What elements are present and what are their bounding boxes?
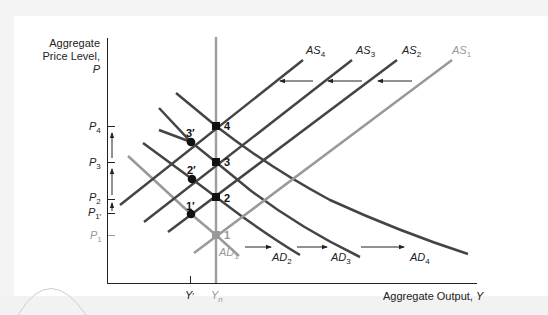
as3-line [144,60,352,222]
point-2 [212,193,220,201]
label-as1: AS1 [452,44,471,61]
ad1-curve [128,156,239,256]
y-axis-title-line1: Aggregate [49,37,100,49]
as4-line [120,60,303,205]
x-axis-title: Aggregate Output, Y [383,290,483,302]
x-axis-var: Y [476,290,483,302]
tick-label-yn: Yn [211,289,223,306]
tick-label-p3: P3 [89,156,101,173]
y-axis-title-line2: Price Level, [43,50,100,62]
label-as4: AS4 [306,44,325,61]
label-point-3-prime: 3′ [186,127,195,139]
point-4 [212,122,220,130]
label-point-4: 4 [224,120,230,132]
as2-line [168,60,397,232]
label-point-3: 3 [224,156,230,168]
y-axis-var: P [93,63,100,75]
ad2-curve [143,143,300,255]
label-point-1-prime: 1′ [186,200,195,212]
tick-label-p1: P1 [90,229,102,246]
label-point-2: 2 [224,192,230,204]
label-as3: AS3 [356,44,375,61]
label-ad3: AD3 [331,251,351,268]
point-3 [212,158,220,166]
label-point-1: 1 [224,229,230,241]
tick-label-p1-prime: P1′ [88,206,101,223]
label-as2: AS2 [402,44,421,61]
decorative-arc [18,289,86,315]
tick-label-y-prime: Y′ [185,289,194,302]
label-ad4: AD4 [410,251,430,268]
point-1 [212,231,220,239]
as1-line [194,60,452,253]
x-axis-title-text: Aggregate Output, [383,290,476,302]
y-axis-title: Aggregate Price Level, P [38,37,100,76]
label-ad2: AD2 [272,251,292,268]
tick-label-p4: P4 [89,120,101,137]
label-ad1: AD1 [219,246,239,263]
label-point-2-prime: 2′ [187,164,196,176]
